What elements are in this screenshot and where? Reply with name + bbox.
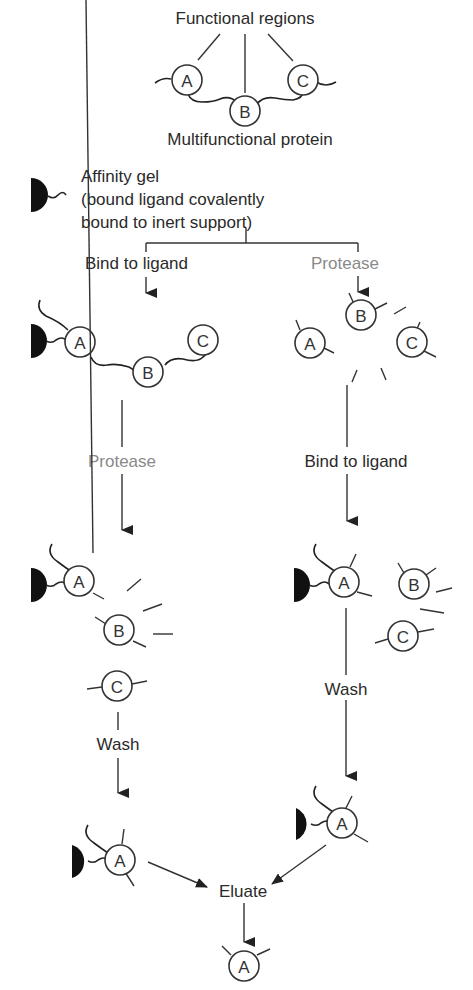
svg-text:C: C <box>297 72 309 91</box>
svg-text:A: A <box>304 335 316 354</box>
domain-c-node: C <box>188 325 218 355</box>
svg-text:B: B <box>408 576 419 595</box>
functional-regions-label: Functional regions <box>176 9 315 28</box>
domain-a-node: A <box>229 951 259 981</box>
svg-text:A: A <box>114 852 126 871</box>
domain-a-node: A <box>329 567 359 597</box>
domain-c-node: C <box>102 671 132 701</box>
affinity-gel-label: Affinity gel <box>81 167 159 186</box>
gel-icon <box>31 568 47 602</box>
domain-b-node: B <box>399 569 429 599</box>
gel-icon <box>294 568 310 602</box>
eluate-label: Eluate <box>219 882 267 901</box>
svg-text:C: C <box>197 332 209 351</box>
right-step1-label: Protease <box>311 254 379 273</box>
domain-a-node: A <box>105 845 135 875</box>
right-to-eluate-arrow <box>272 845 326 884</box>
svg-text:B: B <box>113 622 124 641</box>
svg-text:A: A <box>336 815 348 834</box>
domain-a-node: A <box>172 65 202 95</box>
svg-text:B: B <box>239 103 250 122</box>
gel-icon <box>72 845 84 878</box>
left-step1-label: Bind to ligand <box>85 254 188 273</box>
left-step3-label: Wash <box>97 735 140 754</box>
left-bound-domain-a: A <box>72 825 135 886</box>
right-step2-label: Bind to ligand <box>304 452 407 471</box>
domain-c-node: C <box>397 327 427 357</box>
multifunctional-protein-label: Multifunctional protein <box>167 130 332 149</box>
affinity-gel-desc-2: bound to inert support) <box>81 213 252 232</box>
affinity-gel-icon <box>31 178 48 212</box>
svg-text:A: A <box>181 72 193 91</box>
right-bound-and-free-fragments: A B C <box>294 544 452 651</box>
affinity-chromatography-diagram: Functional regions A B C Multifunctional… <box>0 0 473 990</box>
domain-a-node: A <box>64 566 94 596</box>
pointer-line-a <box>198 34 220 60</box>
left-step2-label: Protease <box>88 452 156 471</box>
affinity-gel-desc-1: (bound ligand covalently <box>81 190 265 209</box>
svg-text:B: B <box>142 364 153 383</box>
svg-text:C: C <box>397 628 409 647</box>
domain-b-node: B <box>346 300 376 330</box>
affinity-gel-legend: Affinity gel (bound ligand covalently bo… <box>31 167 265 232</box>
pointer-line-c <box>268 34 293 61</box>
right-step3-label: Wash <box>325 680 368 699</box>
purified-domain-a: A <box>222 946 270 981</box>
gel-icon <box>296 808 307 840</box>
left-cleaved-fragments: A B C <box>31 0 173 701</box>
right-bound-domain-a: A <box>296 786 368 842</box>
svg-text:A: A <box>73 573 85 592</box>
svg-text:A: A <box>338 574 350 593</box>
gel-icon <box>31 324 47 358</box>
left-bound-intact-protein: A B C <box>31 300 218 387</box>
svg-text:B: B <box>355 307 366 326</box>
domain-a-node: A <box>327 808 357 838</box>
svg-text:A: A <box>74 334 86 353</box>
left-to-eluate-arrow <box>148 862 207 887</box>
svg-text:A: A <box>238 958 250 977</box>
domain-c-node: C <box>288 65 318 95</box>
domain-b-node: B <box>104 615 134 645</box>
domain-c-node: C <box>388 621 418 651</box>
svg-text:C: C <box>406 334 418 353</box>
domain-b-node: B <box>230 96 260 126</box>
domain-a-node: A <box>295 328 325 358</box>
multifunctional-protein-figure: Functional regions A B C Multifunctional… <box>155 9 336 149</box>
svg-text:C: C <box>111 678 123 697</box>
right-cleaved-fragments: B A C <box>295 293 436 382</box>
ligand-icon <box>48 193 66 198</box>
domain-b-node: B <box>133 357 163 387</box>
